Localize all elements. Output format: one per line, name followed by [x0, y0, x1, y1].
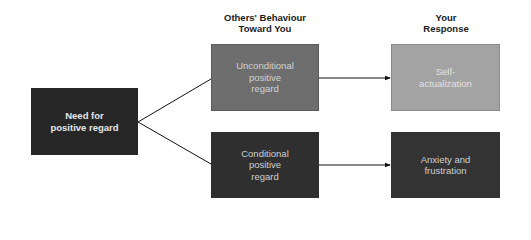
self-actualization-box: Self- actualization	[391, 44, 500, 111]
edge-need-to-conditional	[138, 122, 211, 164]
unconditional-positive-regard-box: Unconditional positive regard	[211, 44, 319, 111]
anxiety-and-frustration-box: Anxiety and frustration	[391, 132, 500, 198]
conditional-positive-regard-box: Conditional positive regard	[211, 132, 319, 198]
need-for-positive-regard-box: Need for positive regard	[31, 88, 138, 155]
conditional-label: Conditional positive regard	[241, 148, 289, 183]
unconditional-label: Unconditional positive regard	[236, 60, 294, 95]
anxiety-label: Anxiety and frustration	[421, 154, 471, 177]
self-actualization-label: Self- actualization	[419, 66, 472, 89]
edge-need-to-unconditional	[138, 79, 211, 122]
need-label: Need for positive regard	[50, 110, 118, 133]
